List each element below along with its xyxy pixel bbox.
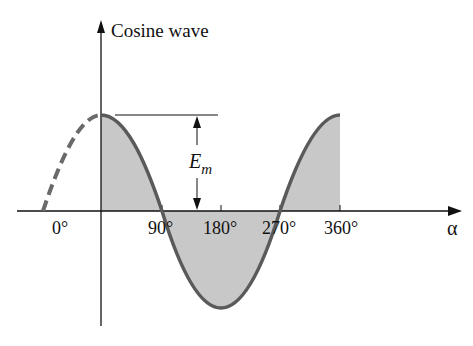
cosine-wave-diagram: Cosine wave Em 0° 90° 180° 270° 360° α <box>0 0 473 346</box>
x-axis-symbol: α <box>447 217 458 239</box>
y-axis-arrow-icon <box>97 20 105 33</box>
tick-label-270: 270° <box>262 218 296 238</box>
chart-title: Cosine wave <box>111 20 209 41</box>
tick-label-0: 0° <box>52 218 68 238</box>
arrow-up-icon <box>193 116 201 128</box>
dashed-extension <box>43 115 101 211</box>
x-axis-arrow-icon <box>448 206 462 216</box>
tick-label-180: 180° <box>203 218 237 238</box>
amplitude-label: Em <box>188 150 212 177</box>
amplitude-subscript: m <box>201 161 212 177</box>
tick-label-90: 90° <box>148 218 173 238</box>
arrow-down-icon <box>193 198 201 210</box>
tick-label-360: 360° <box>324 218 358 238</box>
